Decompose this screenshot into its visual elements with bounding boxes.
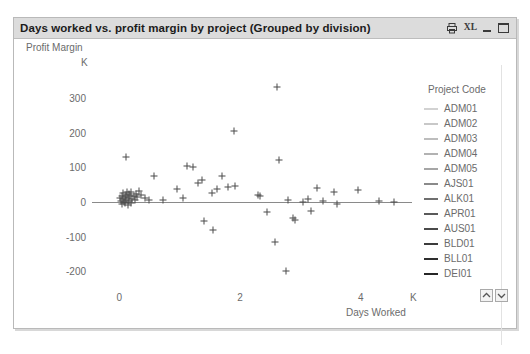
y-axis-tick-label: 0 [40, 196, 86, 207]
scatter-point[interactable] [330, 188, 337, 195]
scatter-point[interactable] [224, 183, 231, 190]
scatter-point[interactable] [209, 190, 216, 197]
zero-reference-line [92, 202, 412, 203]
scatter-point[interactable] [255, 192, 262, 199]
window-titlebar: Days worked vs. profit margin by project… [14, 18, 516, 39]
scatter-point[interactable] [282, 268, 289, 275]
x-axis-title: Days Worked [346, 307, 406, 318]
legend-item-label: ADM05 [444, 163, 477, 174]
scatter-point[interactable] [194, 179, 201, 186]
scatter-point[interactable] [125, 197, 132, 204]
screenshot-root: Days worked vs. profit margin by project… [0, 0, 530, 354]
scatter-point[interactable] [230, 127, 237, 134]
scatter-point[interactable] [125, 194, 132, 201]
print-icon[interactable] [446, 22, 459, 35]
scatter-point[interactable] [199, 177, 206, 184]
scatter-point[interactable] [308, 207, 315, 214]
y-axis-tick-label: 300 [40, 92, 86, 103]
legend-scroll-up-button[interactable] [480, 289, 493, 302]
legend-color-swatch [424, 183, 438, 185]
scatter-point[interactable] [189, 164, 196, 171]
legend-item[interactable]: APR01 [424, 206, 510, 221]
scatter-point[interactable] [137, 192, 144, 199]
scatter-plot-area[interactable]: 3002001000-100-200024 [92, 77, 412, 287]
scatter-point[interactable] [122, 192, 129, 199]
x-axis-tick-label: 2 [237, 292, 243, 303]
y-axis-title: Profit Margin [26, 42, 83, 53]
scatter-point[interactable] [213, 185, 220, 192]
y-axis-tick-label: 100 [40, 162, 86, 173]
legend-color-swatch [424, 123, 438, 125]
excel-export-icon[interactable]: XL [464, 23, 477, 33]
legend-scroll-down-button[interactable] [495, 289, 508, 302]
scatter-point[interactable] [128, 189, 135, 196]
legend-item[interactable]: BLL01 [424, 251, 510, 266]
minimize-icon[interactable] [482, 23, 493, 34]
legend-item-label: ALK01 [444, 193, 474, 204]
scatter-point[interactable] [117, 195, 124, 202]
scatter-point[interactable] [292, 217, 299, 224]
legend-item[interactable]: AUS01 [424, 221, 510, 236]
maximize-icon[interactable] [498, 23, 509, 33]
legend-item[interactable]: ADM04 [424, 146, 510, 161]
scatter-point[interactable] [127, 193, 134, 200]
scatter-point[interactable] [133, 190, 140, 197]
scatter-point[interactable] [173, 185, 180, 192]
scatter-point[interactable] [122, 200, 129, 207]
scatter-point[interactable] [151, 172, 158, 179]
scatter-point[interactable] [276, 157, 283, 164]
legend-color-swatch [424, 138, 438, 140]
scatter-point[interactable] [200, 218, 207, 225]
scatter-point[interactable] [232, 183, 239, 190]
scatter-point[interactable] [123, 153, 130, 160]
scatter-point[interactable] [126, 191, 133, 198]
legend-item[interactable]: ADM03 [424, 131, 510, 146]
scatter-point[interactable] [354, 186, 361, 193]
legend-scroll-controls [424, 289, 510, 302]
scatter-point[interactable] [141, 195, 148, 202]
scatter-point[interactable] [257, 192, 264, 199]
scatter-point[interactable] [271, 238, 278, 245]
legend-item-label: ADM01 [444, 103, 477, 114]
legend-item-label: DEI01 [444, 268, 472, 279]
scatter-point[interactable] [121, 194, 128, 201]
scatter-point[interactable] [120, 190, 127, 197]
legend-item[interactable]: ALK01 [424, 191, 510, 206]
legend-item-list: ADM01ADM02ADM03ADM04ADM05AJS01ALK01APR01… [424, 101, 510, 281]
window-controls: XL [446, 22, 516, 35]
legend-color-swatch [424, 243, 438, 245]
y-axis-tick-label: -200 [40, 266, 86, 277]
legend-item[interactable]: ADM02 [424, 116, 510, 131]
scatter-point[interactable] [118, 192, 125, 199]
scatter-point[interactable] [290, 214, 297, 221]
chart-window: Days worked vs. profit margin by project… [13, 17, 517, 329]
scatter-point[interactable] [314, 185, 321, 192]
scatter-point[interactable] [130, 192, 137, 199]
chart-legend: Project Code ADM01ADM02ADM03ADM04ADM05AJ… [424, 84, 510, 302]
legend-item[interactable]: BLD01 [424, 236, 510, 251]
legend-item[interactable]: AJS01 [424, 176, 510, 191]
legend-item-label: ADM03 [444, 133, 477, 144]
scatter-point[interactable] [136, 187, 143, 194]
chevron-up-icon [482, 292, 491, 299]
scatter-point[interactable] [274, 84, 281, 91]
scatter-point[interactable] [209, 227, 216, 234]
legend-item[interactable]: ADM01 [424, 101, 510, 116]
legend-item-label: AUS01 [444, 223, 476, 234]
scatter-point[interactable] [218, 172, 225, 179]
x-axis-tick-label: 4 [358, 292, 364, 303]
legend-item-label: APR01 [444, 208, 476, 219]
y-axis-tick-label: -100 [40, 231, 86, 242]
scatter-point[interactable] [180, 194, 187, 201]
legend-item[interactable]: DEI01 [424, 266, 510, 281]
legend-item[interactable]: ADM05 [424, 161, 510, 176]
legend-item-label: BLL01 [444, 253, 473, 264]
y-axis-unit: K [81, 57, 88, 68]
x-axis-unit: K [410, 292, 417, 303]
scatter-point[interactable] [134, 194, 141, 201]
y-axis-tick-label: 200 [40, 127, 86, 138]
scatter-point[interactable] [124, 188, 131, 195]
chart-body: Profit Margin K Days Worked K 3002001000… [14, 39, 516, 328]
scatter-point[interactable] [183, 162, 190, 169]
scatter-point[interactable] [264, 209, 271, 216]
